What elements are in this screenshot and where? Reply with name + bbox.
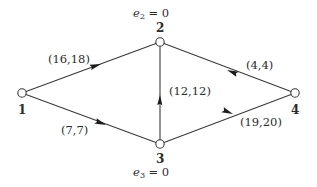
- flow-network-figure: 1 2 3 4 e2 = 0 e3 = 0 (16,18) (7,7) (12,…: [0, 0, 317, 187]
- arrowhead-3-1: [94, 118, 107, 127]
- node-circle-1[interactable]: [18, 89, 26, 97]
- edge-line-3-1: [22, 93, 160, 144]
- edge-lines: [22, 42, 295, 144]
- arrowhead-2-1: [89, 61, 102, 70]
- edge-line-2-4: [160, 42, 295, 93]
- node-circle-2[interactable]: [156, 38, 164, 46]
- node-circle-4[interactable]: [291, 89, 299, 97]
- node-circle-3[interactable]: [156, 140, 164, 148]
- graph-canvas: [0, 0, 317, 187]
- node-circles: [18, 38, 299, 148]
- arrowhead-4-3: [221, 107, 234, 116]
- edge-arrowheads: [89, 61, 239, 127]
- edge-line-2-1: [22, 42, 160, 93]
- edge-line-4-3: [160, 93, 295, 144]
